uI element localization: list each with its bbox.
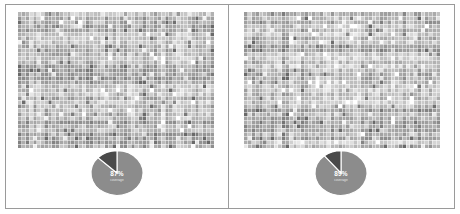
heatmap-right bbox=[244, 12, 440, 148]
pie-sub-label: coverage bbox=[110, 178, 124, 182]
pie-right-svg: 89%coverage bbox=[311, 149, 371, 201]
panel-left: 87%coverage bbox=[6, 5, 228, 208]
heatmap-right-canvas bbox=[244, 12, 440, 148]
heatmap-left bbox=[18, 12, 214, 148]
pie-center-label: 89% bbox=[334, 170, 348, 177]
heatmap-left-canvas bbox=[18, 12, 214, 148]
pie-left-svg: 87%coverage bbox=[87, 149, 147, 201]
figure-root: 87%coverage 89%coverage bbox=[0, 0, 460, 214]
panel-right: 89%coverage bbox=[230, 5, 452, 208]
pie-sub-label: coverage bbox=[334, 178, 348, 182]
pie-left: 87%coverage bbox=[6, 149, 228, 205]
pie-right: 89%coverage bbox=[230, 149, 452, 205]
pie-center-label: 87% bbox=[110, 170, 124, 177]
panel-divider bbox=[228, 5, 229, 208]
